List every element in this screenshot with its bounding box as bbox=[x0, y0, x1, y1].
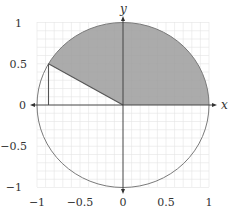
x-tick-1: 1 bbox=[206, 196, 213, 209]
x-axis-right-arrow-icon bbox=[212, 103, 217, 107]
x-tick-0: 0 bbox=[120, 196, 127, 209]
y-tick-1: 1 bbox=[15, 17, 22, 30]
x-axis-left-arrow-icon bbox=[30, 103, 35, 107]
y-tick-0: 0 bbox=[19, 99, 26, 112]
y-axis-label: y bbox=[119, 2, 127, 16]
shaded-sector bbox=[49, 22, 210, 105]
unit-circle-diagram: x y 1 0.5 0 −0.5 −1 −1 −0.5 0 0.5 1 bbox=[0, 0, 234, 211]
x-tick-neg0.5: −0.5 bbox=[67, 196, 94, 209]
x-tick-0.5: 0.5 bbox=[157, 196, 175, 209]
x-axis-label: x bbox=[221, 98, 228, 112]
y-tick-neg0.5: −0.5 bbox=[0, 140, 27, 153]
y-axis-up-arrow-icon bbox=[121, 16, 125, 21]
y-tick-neg1: −1 bbox=[6, 181, 22, 194]
y-axis-down-arrow-icon bbox=[121, 189, 125, 194]
y-tick-0.5: 0.5 bbox=[10, 58, 28, 71]
x-tick-neg1: −1 bbox=[29, 196, 45, 209]
